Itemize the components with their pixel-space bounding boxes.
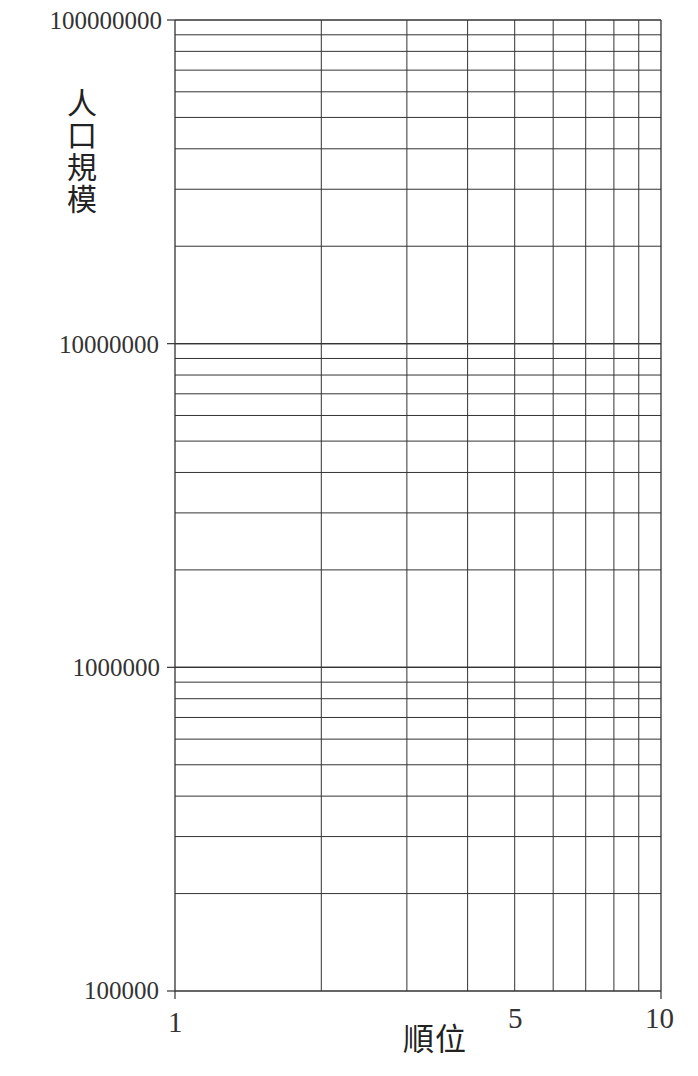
x-tick-label-10: 10: [645, 1004, 674, 1033]
y-tick-label-1e8: 100000000: [2, 8, 162, 33]
y-axis-label-char: 人: [64, 88, 100, 120]
log-log-grid: [0, 0, 698, 1076]
y-axis-label-char: 模: [64, 184, 100, 216]
y-tick-label-1e6: 1000000: [0, 655, 160, 680]
y-axis-label-char: 規: [64, 152, 100, 184]
x-tick-label-5: 5: [508, 1004, 523, 1033]
x-axis-label: 順位: [403, 1014, 467, 1059]
x-tick-label-1: 1: [168, 1008, 183, 1037]
y-axis-label-char: 口: [64, 120, 100, 152]
y-axis-label: 人 口 規 模: [64, 88, 100, 216]
y-tick-label-1e7: 10000000: [0, 332, 159, 357]
y-tick-label-1e5: 100000: [0, 978, 159, 1003]
